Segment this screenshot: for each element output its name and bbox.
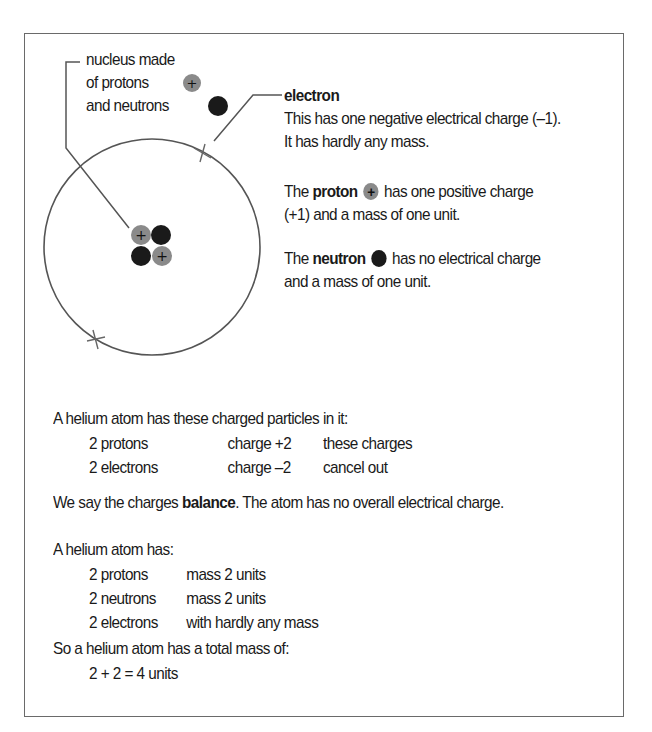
balance-term: balance (182, 493, 235, 512)
neutron-inline-icon (371, 250, 386, 267)
electron-orbit (44, 139, 260, 355)
total-mass-equation: 2 + 2 = 4 units (89, 662, 178, 685)
total-mass-intro: So a helium atom has a total mass of: (53, 637, 289, 660)
neutron-description: The neutron has no electrical charge and… (284, 247, 541, 293)
nucleus: + + (131, 225, 172, 266)
neutron-term: neutron (312, 249, 365, 268)
neutron-icon (131, 246, 151, 266)
mass-intro: A helium atom has: (53, 538, 173, 561)
svg-text:+: + (187, 76, 198, 91)
svg-text:+: + (156, 248, 168, 264)
proton-inline-icon (363, 183, 378, 200)
proton-legend-icon: + (183, 74, 201, 92)
proton-icon: + (152, 246, 172, 266)
proton-description: The proton has one positive charge (+1) … (284, 180, 533, 226)
charges-intro: A helium atom has these charged particle… (53, 407, 348, 430)
electron-heading: electron (284, 86, 339, 105)
electron-icon (87, 330, 105, 349)
neutron-legend-icon (208, 96, 228, 116)
proton-term: proton (312, 182, 357, 201)
balance-statement: We say the charges balance. The atom has… (53, 491, 504, 514)
nucleus-label: nucleus made of protons and neutrons (86, 48, 175, 117)
electron-description: electron This has one negative electrica… (284, 84, 561, 153)
electron-icon (194, 144, 211, 162)
proton-icon: + (131, 225, 151, 245)
neutron-icon (151, 225, 171, 245)
svg-text:+: + (135, 227, 147, 243)
